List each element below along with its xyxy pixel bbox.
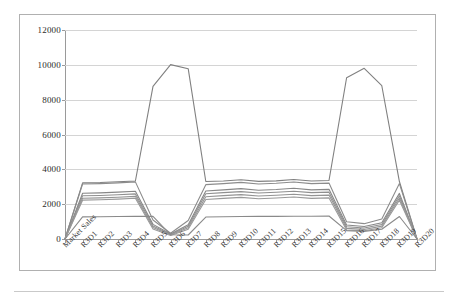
y-tick-label-6000: 6000 <box>42 130 61 140</box>
plot-area <box>65 30 417 239</box>
line-series-group <box>65 30 417 239</box>
y-tick-label-4000: 4000 <box>42 164 61 174</box>
y-tick-label-8000: 8000 <box>42 95 61 105</box>
y-tick-label-2000: 2000 <box>42 199 61 209</box>
y-tick-label-12000: 12000 <box>38 25 62 35</box>
y-tick-label-10000: 10000 <box>38 60 62 70</box>
y-axis-labels: 020004000600080001000012000 <box>20 30 65 239</box>
chart-figure: 020004000600080001000012000 Market Sales… <box>19 14 436 271</box>
screenshot-page: 020004000600080001000012000 Market Sales… <box>0 0 455 299</box>
page-divider <box>14 291 444 292</box>
series-line-1 <box>65 65 417 239</box>
